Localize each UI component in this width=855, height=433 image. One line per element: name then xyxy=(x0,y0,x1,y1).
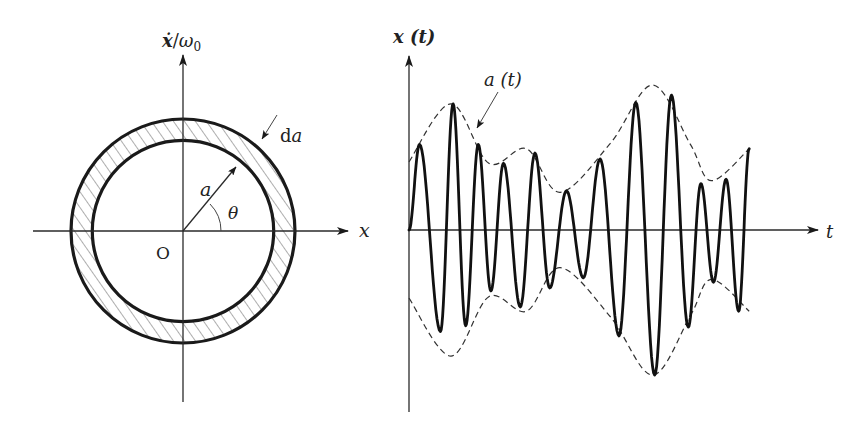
t-axis-label: t xyxy=(826,221,834,242)
angle-arc xyxy=(210,204,221,231)
x-axis-label: x xyxy=(359,219,370,241)
envelope-lower xyxy=(409,268,749,375)
envelope-label: a (t) xyxy=(484,69,522,90)
ring-width-label: da xyxy=(280,125,302,146)
radius-label: a xyxy=(200,178,211,200)
origin-label: O xyxy=(156,243,170,263)
xdot-axis-label: ẋ/ω0 xyxy=(161,30,201,54)
ring-width-leader xyxy=(262,115,277,139)
signal-series xyxy=(409,95,749,375)
signal-panel: x (t) t a (t) xyxy=(392,26,834,412)
phase-plane-panel: ẋ/ω0 x O a θ da xyxy=(33,30,370,402)
angle-label: θ xyxy=(228,203,238,223)
figure-canvas: ẋ/ω0 x O a θ da x (t) t a (t) xyxy=(0,0,855,433)
xt-axis-label: x (t) xyxy=(392,26,435,47)
signal-line xyxy=(409,95,749,375)
envelope-upper xyxy=(409,85,749,192)
envelope-leader xyxy=(477,92,498,128)
